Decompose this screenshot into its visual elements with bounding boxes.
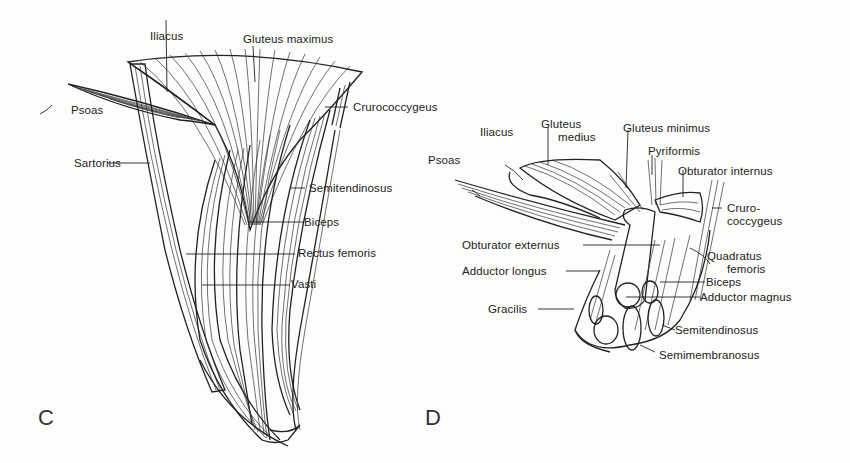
label-d-adductor-magnus: Adductor magnus bbox=[700, 291, 792, 304]
label-c-iliacus: Iliacus bbox=[150, 30, 183, 43]
label-d-obturator-externus: Obturator externus bbox=[462, 239, 560, 252]
label-c-biceps: Biceps bbox=[304, 216, 339, 229]
panel-c-drawing bbox=[40, 20, 362, 446]
muscle-illustration bbox=[0, 0, 850, 463]
label-d-pyriformis: Pyriformis bbox=[648, 145, 700, 158]
label-d-gracilis: Gracilis bbox=[488, 303, 527, 316]
label-d-quadratus-femoris-line1: Quadratus bbox=[707, 250, 762, 263]
label-d-gluteus-medius-line2: medius bbox=[558, 131, 596, 144]
label-d-psoas: Psoas bbox=[428, 154, 460, 167]
label-d-gluteus-minimus: Gluteus minimus bbox=[623, 122, 710, 135]
label-c-gluteus-maximus: Gluteus maximus bbox=[243, 33, 333, 46]
label-d-quadratus-femoris-line2: femoris bbox=[727, 263, 765, 276]
label-c-vasti: Vasti bbox=[291, 278, 316, 291]
label-c-crurococcygeus: Crurococcygeus bbox=[353, 101, 438, 114]
label-d-obturator-internus: Obturator internus bbox=[678, 165, 773, 178]
label-d-iliacus: Iliacus bbox=[480, 126, 513, 139]
label-d-gluteus-medius-line1: Gluteus bbox=[541, 118, 581, 131]
label-d-semimembranosus: Semimembranosus bbox=[659, 349, 760, 362]
panel-letter-c: C bbox=[38, 405, 54, 431]
label-d-semitendinosus: Semitendinosus bbox=[675, 324, 758, 337]
label-c-psoas: Psoas bbox=[71, 104, 103, 117]
label-c-semitendinosus: Semitendinosus bbox=[309, 182, 392, 195]
label-d-adductor-longus: Adductor longus bbox=[462, 265, 547, 278]
label-d-crurococcygeus-line1: Cruro- bbox=[727, 202, 760, 215]
label-d-crurococcygeus-line2: coccygeus bbox=[727, 215, 782, 228]
panel-letter-d: D bbox=[425, 405, 441, 431]
label-c-rectus-femoris: Rectus femoris bbox=[298, 247, 376, 260]
label-c-sartorius: Sartorius bbox=[74, 157, 121, 170]
label-d-biceps: Biceps bbox=[706, 276, 741, 289]
